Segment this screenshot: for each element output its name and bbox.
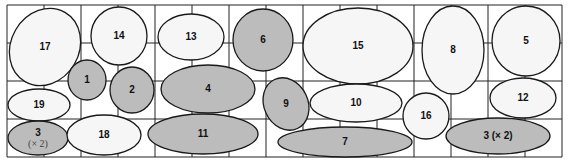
- shape-label: 17: [39, 41, 51, 52]
- shape-11: 11: [148, 114, 258, 154]
- shape-19: 19: [8, 89, 70, 121]
- shape-16: 16: [403, 93, 449, 139]
- shape-2: 2: [110, 67, 154, 113]
- shape-label: 15: [352, 40, 364, 51]
- shape-3: 3(× 2): [8, 121, 68, 155]
- shape-label: 7: [342, 136, 348, 147]
- shape-5: 5: [492, 6, 560, 76]
- shape-12: 12: [490, 78, 556, 118]
- shape-label: 3 (× 2): [483, 130, 512, 141]
- shape-3-2: 3 (× 2): [446, 118, 550, 154]
- shape-label: 18: [98, 129, 110, 140]
- shape-label: 19: [33, 99, 45, 110]
- shape-label: 2: [129, 84, 135, 95]
- shape-18: 18: [67, 115, 141, 155]
- shape-15: 15: [303, 8, 413, 84]
- shape-label: 5: [523, 35, 529, 46]
- shape-4: 4: [161, 65, 255, 113]
- shape-label: 12: [517, 92, 529, 103]
- shape-8: 8: [422, 6, 484, 94]
- shape-label: 6: [260, 34, 266, 45]
- numbered-shapes: 171413615851249101612193(× 2)181173 (× 2…: [0, 0, 560, 157]
- shape-label: 9: [283, 98, 289, 109]
- shape-label: 14: [113, 30, 125, 41]
- shape-label: 16: [420, 110, 432, 121]
- shape-grid-diagram: 171413615851249101612193(× 2)181173 (× 2…: [0, 0, 569, 162]
- shape-10: 10: [310, 84, 402, 122]
- shape-count-label: (× 2): [28, 138, 48, 150]
- shape-label: 4: [205, 83, 211, 94]
- shape-6: 6: [233, 9, 293, 71]
- shape-1: 1: [68, 60, 106, 100]
- shape-label: 1: [84, 74, 90, 85]
- shape-label: 10: [350, 97, 362, 108]
- shape-label: 8: [450, 44, 456, 55]
- shape-9: 9: [255, 70, 318, 138]
- shape-13: 13: [158, 14, 224, 60]
- shape-7: 7: [278, 127, 412, 157]
- shape-label: 3: [35, 127, 41, 138]
- shape-label: 11: [198, 128, 209, 139]
- shape-label: 13: [185, 31, 197, 42]
- shape-14: 14: [91, 7, 147, 65]
